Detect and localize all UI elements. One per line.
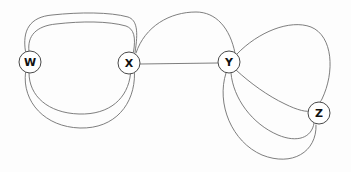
- node-label-w: W: [24, 56, 36, 69]
- graph-edge-y-z: [237, 25, 330, 103]
- edge-layer: [25, 12, 330, 159]
- node-layer: WXYZ: [19, 51, 330, 124]
- node-label-z: Z: [315, 107, 323, 120]
- graph-edge-x-y: [136, 12, 235, 53]
- graph-diagram: WXYZ: [0, 0, 351, 172]
- graph-edge-w-x: [29, 73, 131, 114]
- node-label-y: Y: [224, 56, 234, 69]
- graph-node-w[interactable]: W: [19, 51, 41, 73]
- graph-node-z[interactable]: Z: [308, 102, 330, 124]
- graph-edge-y-z: [236, 70, 311, 111]
- graph-canvas: WXYZ: [0, 0, 351, 172]
- graph-node-x[interactable]: X: [118, 52, 140, 74]
- graph-edge-y-z: [231, 73, 314, 139]
- graph-edge-w-x: [29, 22, 135, 52]
- graph-edge-y-z: [223, 73, 316, 159]
- graph-edge-w-x: [25, 73, 134, 129]
- graph-node-y[interactable]: Y: [218, 51, 240, 73]
- node-label-x: X: [125, 57, 134, 70]
- graph-edge-x-y: [140, 63, 218, 64]
- graph-edge-w-x: [25, 13, 137, 53]
